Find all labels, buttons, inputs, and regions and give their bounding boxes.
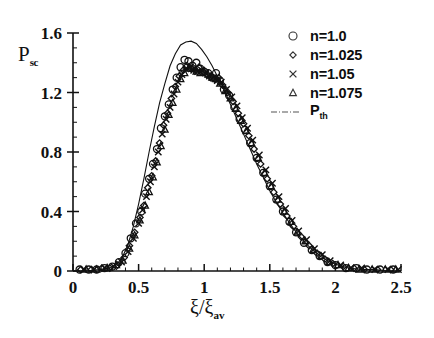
x-tick-label: 2: [331, 278, 340, 297]
diamond-icon: [276, 48, 310, 62]
legend-item-2: n=1.05: [276, 64, 426, 83]
y-tick-label: 1.2: [41, 84, 62, 103]
x-tick-label: 0.5: [128, 278, 149, 297]
legend-label: n=1.0: [310, 28, 346, 44]
legend-label: n=1.025: [310, 47, 362, 63]
x-tick-label: 1: [200, 278, 209, 297]
legend-item-3: n=1.075: [276, 83, 426, 102]
triangle-icon: [276, 86, 310, 100]
x-axis-label-sub: av: [213, 309, 224, 321]
y-tick-label: 1.6: [41, 24, 62, 43]
y-tick-label: 0.8: [41, 143, 62, 162]
dashdot-line-icon: [262, 105, 310, 119]
y-tick-label: 0.4: [41, 203, 63, 222]
x-axis-label-main: ξ/ξ: [190, 296, 213, 318]
legend-label: n=1.05: [310, 66, 354, 82]
y-axis-label: Psc: [18, 42, 38, 68]
legend-label: n=1.075: [310, 85, 362, 101]
x-tick-label: 2.5: [390, 278, 411, 297]
legend: n=1.0n=1.025n=1.05n=1.075Pth: [276, 26, 426, 121]
x-tick-label: 0: [69, 278, 78, 297]
y-tick-label: 0: [54, 262, 63, 281]
y-axis-label-main: P: [18, 42, 30, 66]
legend-item-4: Pth: [276, 102, 426, 121]
circle-icon: [276, 29, 310, 43]
x-axis-label: ξ/ξav: [190, 296, 224, 321]
legend-item-0: n=1.0: [276, 26, 426, 45]
legend-label: Pth: [310, 102, 328, 121]
y-axis-label-sub: sc: [30, 56, 38, 68]
cross-icon: [276, 67, 310, 81]
legend-label-sub: th: [319, 111, 327, 121]
x-tick-label: 1.5: [259, 278, 280, 297]
legend-item-1: n=1.025: [276, 45, 426, 64]
